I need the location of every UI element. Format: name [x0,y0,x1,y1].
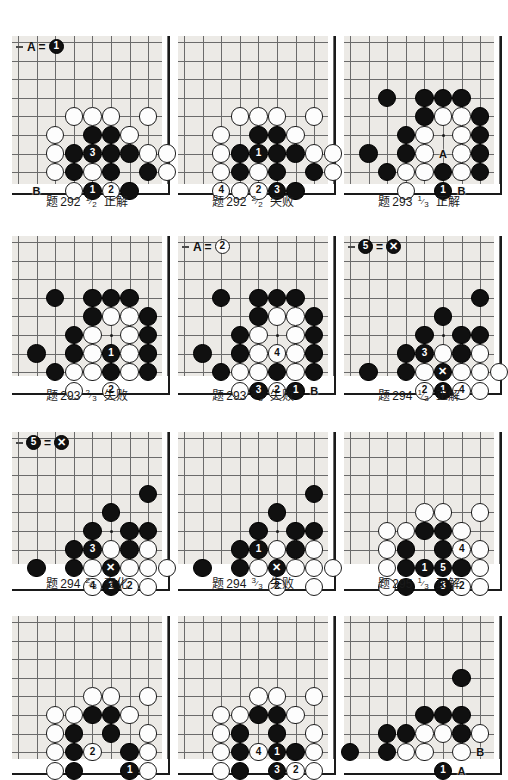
black-stone[interactable] [471,144,490,163]
black-stone[interactable] [415,326,434,345]
white-stone[interactable] [231,363,250,382]
white-stone[interactable] [490,363,508,382]
white-stone[interactable] [65,706,84,725]
white-stone[interactable] [471,503,490,522]
white-stone[interactable] [434,724,453,743]
black-stone[interactable] [102,289,121,308]
black-stone[interactable] [65,144,84,163]
white-stone[interactable]: 4 [268,344,287,363]
white-stone[interactable] [286,126,305,145]
black-stone[interactable] [83,289,102,308]
black-stone[interactable] [415,522,434,541]
black-stone[interactable] [359,144,378,163]
black-stone[interactable]: 3 [83,144,102,163]
white-stone[interactable] [452,107,471,126]
white-stone[interactable] [397,743,416,762]
white-stone[interactable] [415,163,434,182]
white-stone[interactable] [415,144,434,163]
black-stone[interactable] [249,706,268,725]
black-stone[interactable] [212,289,231,308]
black-stone[interactable] [415,706,434,725]
black-stone[interactable] [415,89,434,108]
black-stone[interactable] [397,126,416,145]
white-stone[interactable] [231,107,250,126]
white-stone[interactable] [83,107,102,126]
white-stone[interactable]: 2 [83,743,102,762]
white-stone[interactable] [139,107,158,126]
black-stone[interactable] [231,144,250,163]
white-stone[interactable] [305,540,324,559]
black-stone[interactable] [434,706,453,725]
black-stone[interactable] [286,743,305,762]
white-stone[interactable] [120,363,139,382]
black-stone[interactable] [46,289,65,308]
black-stone[interactable] [434,540,453,559]
white-stone[interactable] [434,107,453,126]
black-stone[interactable] [46,363,65,382]
black-stone[interactable] [359,363,378,382]
black-stone[interactable] [378,724,397,743]
white-stone[interactable] [83,326,102,345]
black-stone[interactable] [231,762,250,780]
black-stone[interactable] [83,522,102,541]
white-stone[interactable] [249,687,268,706]
white-stone[interactable] [415,724,434,743]
black-stone[interactable] [471,126,490,145]
black-stone[interactable] [286,289,305,308]
white-stone[interactable] [305,724,324,743]
black-stone[interactable]: 1 [268,743,287,762]
white-stone[interactable] [415,363,434,382]
black-stone[interactable] [452,326,471,345]
white-stone[interactable] [139,540,158,559]
white-stone[interactable] [415,743,434,762]
white-stone[interactable] [324,144,343,163]
black-stone[interactable] [268,163,287,182]
go-board-d5[interactable]: 4321B [178,236,328,376]
white-stone[interactable] [83,363,102,382]
white-stone[interactable] [46,706,65,725]
white-stone[interactable] [83,687,102,706]
white-stone[interactable] [46,126,65,145]
go-board-d8[interactable]: 1✕2 [178,432,328,564]
white-stone[interactable] [231,706,250,725]
white-stone[interactable] [212,724,231,743]
black-stone[interactable] [231,163,250,182]
black-stone[interactable] [139,163,158,182]
black-stone[interactable] [471,326,490,345]
black-stone[interactable] [65,326,84,345]
black-stone[interactable] [268,503,287,522]
go-board-d7[interactable]: 3✕412 [12,432,162,564]
black-stone[interactable] [83,307,102,326]
white-stone[interactable] [65,363,84,382]
black-stone[interactable]: 1 [102,344,121,363]
go-board-d2[interactable]: 1423 [178,36,328,184]
black-stone[interactable] [286,540,305,559]
black-stone[interactable] [139,344,158,363]
white-stone[interactable] [452,743,471,762]
black-stone[interactable] [415,107,434,126]
black-stone[interactable] [102,724,121,743]
go-board-d4[interactable]: 12 [12,236,162,376]
black-stone[interactable] [305,344,324,363]
white-stone[interactable] [378,540,397,559]
white-stone[interactable] [249,107,268,126]
black-stone[interactable] [231,540,250,559]
white-stone[interactable] [65,107,84,126]
black-stone[interactable]: 3 [83,540,102,559]
white-stone[interactable] [139,724,158,743]
white-stone[interactable] [471,344,490,363]
black-stone[interactable] [471,163,490,182]
white-stone[interactable] [249,163,268,182]
go-board-d6[interactable]: 3✕214 [344,236,494,376]
white-stone[interactable] [324,163,343,182]
white-stone[interactable] [212,163,231,182]
black-stone[interactable]: 3 [415,344,434,363]
black-stone[interactable] [305,363,324,382]
black-stone[interactable] [102,144,121,163]
black-stone[interactable] [434,163,453,182]
black-stone[interactable] [249,126,268,145]
white-stone[interactable] [452,163,471,182]
black-stone[interactable] [471,289,490,308]
black-stone[interactable] [231,344,250,363]
white-stone[interactable] [452,363,471,382]
